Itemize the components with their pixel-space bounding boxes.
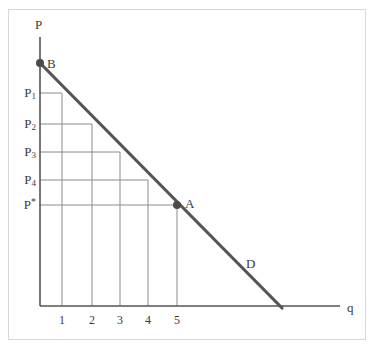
price-label-p1: P1 [8, 85, 36, 101]
price-guide-lines [40, 93, 177, 205]
y-axis-label: P [35, 17, 42, 33]
point-b-label: B [47, 56, 56, 72]
price-label-pstar: P* [8, 197, 36, 213]
demand-curve-label: D [246, 256, 255, 272]
demand-curve-chart [0, 0, 377, 349]
x-tick-label-4: 4 [140, 313, 156, 328]
x-tick-label-1: 1 [54, 313, 70, 328]
x-tick-label-2: 2 [84, 313, 100, 328]
price-label-p3: P3 [8, 144, 36, 160]
quantity-drop-lines [62, 93, 177, 306]
price-label-p4: P4 [8, 172, 36, 188]
price-label-p2: P2 [8, 116, 36, 132]
point-a-label: A [185, 196, 194, 212]
figure-root: P q P1 P2 P3 P4 P* 1 2 3 4 5 B A D [0, 0, 377, 349]
point-b-marker [36, 59, 44, 67]
x-tick-label-5: 5 [169, 313, 185, 328]
x-tick-label-3: 3 [112, 313, 128, 328]
x-axis-label: q [347, 300, 354, 316]
point-a-marker [173, 201, 181, 209]
